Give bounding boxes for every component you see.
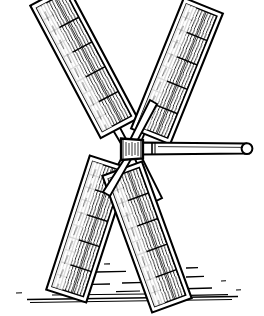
shaft-end-cap: [242, 143, 253, 154]
windmill-engraving-figure: Windmill sail assembly (wind wheel) line…: [0, 0, 264, 316]
wind-shaft: [141, 143, 252, 155]
windmill-engraving-canvas: [0, 0, 264, 316]
shaft-body: [141, 143, 246, 155]
